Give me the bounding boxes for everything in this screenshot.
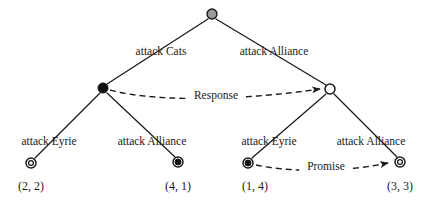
payoff-label-2-2: (2, 2) <box>18 180 44 192</box>
action-label-attack-cats: attack Cats <box>136 46 187 58</box>
payoff-label-3-3: (3, 3) <box>387 180 413 192</box>
message-label-promise: Promise <box>304 161 348 173</box>
message-label-response: Response <box>191 90 241 102</box>
payoff-label-4-1: (4, 1) <box>165 180 191 192</box>
node-left-decision <box>98 83 108 93</box>
node-terminal-2-2 <box>26 158 36 168</box>
payoff-label-1-4: (1, 4) <box>242 180 268 192</box>
action-label-attack-alliance-top: attack Alliance <box>240 46 309 58</box>
node-root <box>207 9 217 19</box>
response-arrow-segment-left <box>110 90 186 98</box>
promise-arrow-segment-left <box>256 165 299 170</box>
node-terminal-4-1 <box>173 157 183 167</box>
action-label-attack-alliance-left: attack Alliance <box>118 136 187 148</box>
action-label-attack-eyrie-left: attack Eyrie <box>21 136 76 148</box>
action-label-attack-alliance-right: attack Alliance <box>337 136 406 148</box>
tree-edge-left-to-terminal-22 <box>35 93 100 158</box>
game-tree-canvas <box>0 0 430 204</box>
action-label-attack-eyrie-right: attack Eyrie <box>241 136 296 148</box>
node-terminal-3-3 <box>395 157 405 167</box>
response-arrow-segment-right <box>246 89 320 97</box>
node-right-decision <box>325 84 335 94</box>
promise-arrow-segment-right <box>353 163 388 168</box>
tree-edge-right-to-terminal-14 <box>252 94 326 158</box>
game-tree-figure: attack Cats attack Alliance attack Eyrie… <box>0 0 430 204</box>
node-terminal-1-4 <box>243 158 253 168</box>
